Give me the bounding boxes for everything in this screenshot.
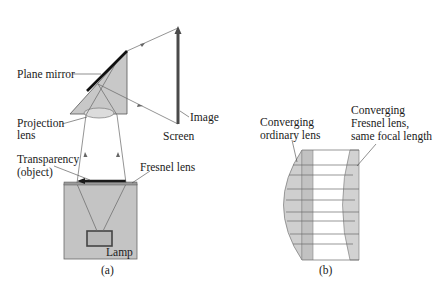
- label-fresnel-lens: Fresnel lens: [140, 161, 195, 174]
- lamp: [87, 231, 112, 246]
- label-projection-lens-line2: lens: [17, 129, 36, 142]
- label-transparency-line2: (object): [17, 166, 53, 179]
- label-fresnel-line1: Converging: [351, 104, 405, 117]
- label-plane-mirror: Plane mirror: [17, 68, 75, 81]
- label-lamp: Lamp: [106, 246, 133, 259]
- label-ordinary-lens-line1: Converging: [260, 116, 314, 129]
- fresnel-lens: [343, 150, 360, 260]
- projection-lens: [84, 108, 114, 118]
- ordinary-lens: [284, 150, 303, 260]
- label-transparency-line1: Transparency: [17, 153, 79, 166]
- label-fresnel-line3: same focal length: [351, 130, 432, 143]
- caption-a: (a): [101, 264, 114, 276]
- label-fresnel-line2: Fresnel lens,: [351, 117, 409, 130]
- label-ordinary-lens-line2: ordinary lens: [260, 129, 320, 142]
- overhead-projector-diagram: [0, 0, 435, 288]
- label-screen: Screen: [163, 130, 194, 143]
- caption-b: (b): [319, 264, 332, 276]
- label-image: Image: [190, 111, 219, 124]
